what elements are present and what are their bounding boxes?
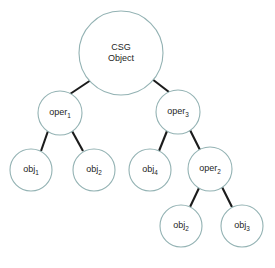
node-label-base: obj	[173, 220, 185, 230]
node-label-base: obj	[23, 164, 35, 174]
node-label-subscript: 4	[154, 169, 158, 176]
tree-node[interactable]: obj1	[10, 149, 52, 191]
node-label-base: oper	[199, 163, 217, 173]
node-label-base: oper	[49, 107, 67, 117]
tree-node[interactable]: CSGObject	[79, 11, 163, 95]
node-label-subscript: 3	[246, 225, 250, 232]
tree-node[interactable]: obj2	[160, 205, 202, 247]
node-label-base: obj	[234, 220, 246, 230]
node-label-subscript: 1	[67, 112, 71, 119]
tree-edge	[190, 188, 199, 207]
node-label-subscript: 2	[185, 225, 189, 232]
tree-node[interactable]: obj3	[221, 205, 263, 247]
csg-tree-diagram: CSGObjectoper1oper3obj1obj2obj4oper2obj2…	[0, 0, 275, 268]
csg-tree-canvas: CSGObjectoper1oper3obj1obj2obj4oper2obj2…	[0, 0, 275, 268]
tree-edge	[41, 131, 48, 151]
tree-edge	[72, 131, 83, 151]
tree-node[interactable]: obj2	[73, 149, 115, 191]
node-label-line1: CSG	[111, 42, 131, 52]
tree-edge	[190, 130, 200, 150]
tree-node[interactable]: oper1	[38, 91, 82, 135]
tree-node[interactable]: oper3	[156, 90, 200, 134]
tree-node[interactable]: obj4	[129, 149, 171, 191]
node-label: CSGObject	[108, 42, 135, 63]
node-label-base: obj	[86, 164, 98, 174]
tree-edge	[152, 79, 169, 92]
node-label-base: obj	[142, 164, 154, 174]
node-label-subscript: 2	[217, 168, 221, 175]
nodes-layer: CSGObjectoper1oper3obj1obj2obj4oper2obj2…	[10, 11, 263, 247]
node-label-subscript: 3	[185, 111, 189, 118]
tree-edge	[70, 80, 91, 94]
node-label-subscript: 1	[35, 169, 39, 176]
node-label-subscript: 2	[98, 169, 102, 176]
tree-node[interactable]: oper2	[188, 147, 232, 191]
tree-edge	[222, 187, 232, 207]
node-label-line2: Object	[108, 53, 135, 63]
tree-edge	[159, 131, 167, 151]
node-label-base: oper	[167, 106, 185, 116]
